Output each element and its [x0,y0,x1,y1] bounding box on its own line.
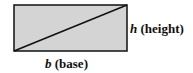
base-text: (base) [52,56,88,71]
rectangle-diagram [0,0,193,73]
base-label: b (base) [45,57,88,70]
height-text: (height) [137,21,184,36]
height-label: h (height) [130,22,184,35]
